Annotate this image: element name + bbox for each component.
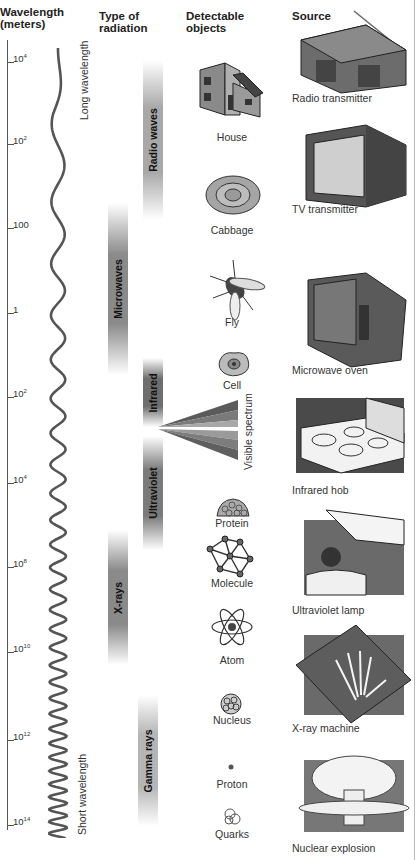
axis-tick-label: 1010 xyxy=(13,643,30,654)
object-label-house: House xyxy=(187,131,277,143)
short-wavelength-label: Short wavelength xyxy=(76,754,88,835)
tick-exponent: 10 xyxy=(24,643,31,649)
header-objects-line2: objects xyxy=(186,22,244,34)
wave-illustration xyxy=(40,48,80,838)
radiation-band-microwaves: Microwaves xyxy=(108,203,128,375)
source-label-ultraviolet-lamp: Ultraviolet lamp xyxy=(292,604,364,616)
radiation-band-label: Microwaves xyxy=(112,259,124,319)
tick-base: 10 xyxy=(13,643,24,654)
object-label-nucleus: Nucleus xyxy=(187,714,277,726)
radiation-band-radio-waves: Radio waves xyxy=(143,60,163,220)
nucleus-icon xyxy=(219,692,243,716)
source-label-nuclear-explosion: Nuclear explosion xyxy=(292,842,375,854)
header-type-line1: Type of xyxy=(99,10,148,22)
radiation-band-gamma-rays: Gamma rays xyxy=(138,695,158,826)
atom-icon xyxy=(210,605,254,649)
source-label-infrared-hob: Infrared hob xyxy=(292,484,349,496)
header-wavelength: Wavelength (meters) xyxy=(0,6,64,30)
radiation-band-label: X-rays xyxy=(112,581,124,613)
radiation-band-label: Gamma rays xyxy=(142,729,154,792)
tick-base: 10 xyxy=(13,135,24,146)
tick-exponent: 4 xyxy=(24,53,27,59)
radiation-band-label: Ultraviolet xyxy=(147,467,159,518)
tick-base: 10 xyxy=(13,558,24,569)
visible-spectrum-fan xyxy=(158,398,238,468)
microwave-icon xyxy=(296,265,411,370)
cabbage-icon xyxy=(203,173,263,218)
axis-tick-label: 104 xyxy=(13,53,27,64)
header-wavelength-title: Wavelength xyxy=(0,6,64,18)
tick-base: 10 xyxy=(13,388,24,399)
axis-tick-label: 1012 xyxy=(13,731,30,742)
header-type-of-radiation: Type of radiation xyxy=(99,10,148,34)
tick-base: 10 xyxy=(13,816,24,827)
tick-base: 10 xyxy=(13,474,24,485)
tick-base: 10 xyxy=(13,53,24,64)
right-border xyxy=(414,0,415,860)
axis-tick-label: 108 xyxy=(13,558,27,569)
tv-icon xyxy=(296,115,411,210)
object-label-cell: Cell xyxy=(187,379,277,391)
visible-spectrum-label: Visible spectrum xyxy=(242,393,254,470)
object-label-fly: Fly xyxy=(187,316,277,328)
xray-icon xyxy=(296,625,411,725)
axis-tick-label: 1014 xyxy=(13,816,30,827)
object-label-atom: Atom xyxy=(187,654,277,666)
object-label-protein: Protein xyxy=(187,517,277,529)
axis-tick-label: 1 xyxy=(13,304,18,315)
quarks-icon xyxy=(222,808,242,826)
tick-exponent: 2 xyxy=(24,135,27,141)
header-detectable-objects: Detectable objects xyxy=(186,10,244,34)
radio-icon xyxy=(296,5,411,95)
axis-tick-label: 102 xyxy=(13,388,27,399)
tick-base: 1 xyxy=(13,304,18,315)
wavelength-axis xyxy=(7,40,8,830)
fly-icon xyxy=(205,258,270,323)
tick-exponent: 14 xyxy=(24,816,31,822)
tick-exponent: 8 xyxy=(24,558,27,564)
axis-tick-label: 104 xyxy=(13,474,27,485)
header-wavelength-unit: (meters) xyxy=(0,18,64,30)
axis-tick-label: 102 xyxy=(13,135,27,146)
tick-exponent: 12 xyxy=(24,731,31,737)
proton-icon xyxy=(227,763,235,771)
infrared-hob-icon xyxy=(296,388,411,478)
header-objects-line1: Detectable xyxy=(186,10,244,22)
tick-exponent: 2 xyxy=(24,388,27,394)
object-label-proton: Proton xyxy=(187,778,277,790)
axis-tick-label: 100 xyxy=(13,219,29,230)
molecule-icon xyxy=(205,534,255,579)
long-wavelength-label: Long wavelength xyxy=(78,41,90,120)
header-type-line2: radiation xyxy=(99,22,148,34)
object-label-cabbage: Cabbage xyxy=(187,224,277,236)
tick-base: 10 xyxy=(13,731,24,742)
nuclear-explosion-icon xyxy=(296,750,411,835)
uv-lamp-icon xyxy=(296,505,411,600)
tick-exponent: 4 xyxy=(24,474,27,480)
radiation-band-label: Radio waves xyxy=(147,108,159,172)
tick-base: 100 xyxy=(13,219,29,230)
house-icon xyxy=(195,55,265,125)
object-label-quarks: Quarks xyxy=(187,828,277,840)
object-label-molecule: Molecule xyxy=(187,577,277,589)
radiation-band-x-rays: X-rays xyxy=(108,530,128,665)
cell-icon xyxy=(216,350,252,378)
